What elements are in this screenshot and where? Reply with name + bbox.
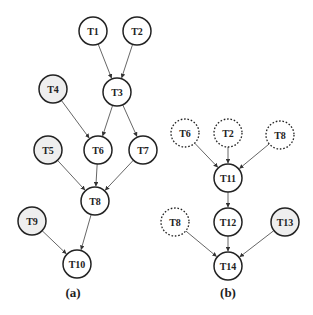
node-label: T13	[277, 217, 294, 228]
node-t14: T14	[214, 252, 242, 280]
edge-t8-to-t14	[186, 231, 217, 256]
edge-t13-to-t14	[240, 231, 274, 257]
edge-t3-to-t7	[123, 105, 137, 137]
node-label: T5	[42, 145, 54, 156]
node-label: T8	[89, 196, 101, 207]
node-label: T4	[47, 84, 59, 95]
node-label: T8	[169, 217, 181, 228]
node-t3: T3	[103, 78, 131, 106]
edge-t9-to-t10	[42, 231, 66, 254]
edge-t1-to-t3	[98, 44, 111, 78]
node-t4: T4	[39, 75, 67, 103]
edge-t7-to-t8	[105, 160, 133, 190]
node-label: T7	[137, 145, 149, 156]
node-label: T2	[131, 26, 143, 37]
captions-layer: (a)(b)	[65, 285, 236, 300]
edge-t4-to-t6	[61, 100, 89, 138]
node-label: T3	[111, 87, 123, 98]
node-t2: T2	[123, 17, 151, 45]
node-label: T1	[87, 26, 99, 37]
node-t8: T8	[161, 208, 189, 236]
node-label: T6	[92, 145, 104, 156]
edge-t8-to-t10	[81, 214, 91, 249]
node-label: T10	[69, 259, 86, 270]
edge-t5-to-t8	[57, 160, 84, 190]
edge-t3-to-t6	[103, 105, 113, 135]
node-t13: T13	[271, 208, 299, 236]
edge-t2-to-t3	[122, 44, 133, 77]
panel-caption-b: (b)	[220, 285, 236, 300]
edge-t6-to-t11	[195, 143, 218, 167]
node-t7: T7	[129, 136, 157, 164]
edge-t6-to-t8	[96, 164, 97, 186]
node-t6: T6	[84, 136, 112, 164]
node-t9: T9	[18, 207, 46, 235]
node-t2: T2	[214, 119, 242, 147]
node-label: T6	[179, 128, 191, 139]
node-label: T2	[222, 128, 234, 139]
node-t1: T1	[79, 17, 107, 45]
nodes-layer: T1T2T3T4T5T6T7T8T9T10T6T2T8T11T8T12T13T1…	[18, 17, 299, 280]
node-label: T9	[26, 216, 38, 227]
node-t5: T5	[34, 136, 62, 164]
node-t6: T6	[171, 119, 199, 147]
node-t12: T12	[214, 208, 242, 236]
node-t8: T8	[266, 121, 294, 149]
edge-t8-to-t11	[240, 144, 270, 169]
node-label: T11	[220, 173, 236, 184]
node-t8: T8	[81, 187, 109, 215]
node-label: T12	[220, 217, 237, 228]
node-label: T14	[220, 261, 237, 272]
task-graph-diagram: T1T2T3T4T5T6T7T8T9T10T6T2T8T11T8T12T13T1…	[0, 0, 313, 315]
node-label: T8	[274, 130, 286, 141]
node-t10: T10	[63, 250, 91, 278]
panel-caption-a: (a)	[65, 285, 80, 300]
node-t11: T11	[214, 164, 242, 192]
